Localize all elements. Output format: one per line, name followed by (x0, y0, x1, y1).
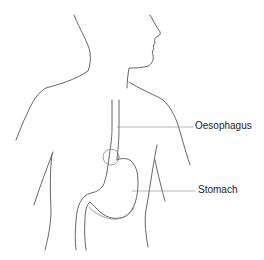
right-arm-line (155, 160, 165, 201)
oesophagus-inner (85, 100, 138, 250)
stomach-label: Stomach (198, 185, 237, 195)
face-profile (127, 15, 160, 88)
cardiac-sphincter-circle (103, 149, 119, 165)
left-torso-line (45, 154, 52, 250)
oesophagus-outline (75, 100, 112, 250)
body-outline-right (129, 82, 190, 165)
body-outline-left (16, 15, 90, 140)
oesophagus-label: Oesophagus (195, 121, 252, 131)
